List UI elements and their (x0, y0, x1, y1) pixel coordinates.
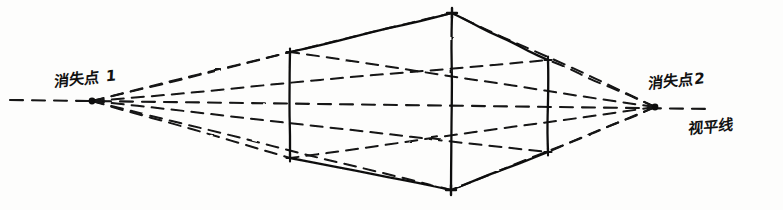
vp-right-to-left-bottom (290, 107, 655, 158)
left-bottom-corner-tick (287, 155, 294, 162)
vanishing-point-left-dot (89, 98, 96, 105)
front-vertical-edge (451, 13, 452, 190)
vp-left-to-left-bottom (92, 101, 290, 158)
vp-right-to-left-top (290, 52, 655, 107)
right-vertical-edge (547, 60, 548, 152)
front-bottom-corner-tick (446, 185, 456, 195)
vanishing-point-right-dot (652, 104, 659, 111)
left-top-corner-tick (287, 49, 294, 56)
vp-left-to-right-top (92, 60, 548, 101)
front-top-corner-tick (447, 8, 457, 18)
vp-right-to-right-top (548, 60, 655, 107)
top-right-edge (452, 13, 548, 60)
right-top-corner-tick (545, 57, 552, 64)
bottom-left-edge (290, 158, 451, 190)
right-bottom-corner-tick (545, 149, 552, 156)
bottom-right-edge (451, 152, 548, 190)
perspective-diagram (0, 0, 783, 210)
left-vertical-edge (290, 52, 291, 158)
vp-left-to-right-bottom (92, 101, 548, 152)
sketch-canvas: 消失点 1 消失点2 视平线 (0, 0, 783, 210)
vp-left-to-front-bottom (92, 101, 451, 190)
horizon-line-label: 视平线 (687, 113, 735, 138)
top-left-edge (290, 13, 452, 52)
vp-right-to-right-bottom (548, 107, 655, 152)
